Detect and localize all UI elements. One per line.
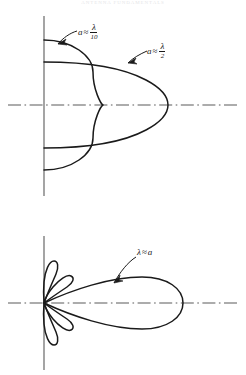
leader-arrow-lambda-over-10 [58, 31, 77, 45]
fraction-numerator-2: λ [159, 42, 165, 52]
leader-arrow-lambda-approx-a [114, 257, 136, 283]
fraction-lambda-over-2: λ2 [159, 42, 165, 60]
approx-symbol-1: ≈ [83, 27, 90, 37]
fraction-numerator-1: λ [90, 23, 97, 33]
approx-symbol-3: ≈ [141, 247, 148, 257]
label-a-approx-lambda-over-10: a≈λ10 [78, 23, 97, 41]
label-variable-a-3: a [148, 247, 153, 257]
label-lambda-approx-a: λ≈a [137, 248, 152, 257]
figure-root: ANTENNA FUNDAMENTALS [0, 0, 246, 375]
upper-panel [8, 16, 238, 196]
fraction-denominator-1: 10 [90, 33, 97, 40]
fraction-lambda-over-10: λ10 [90, 23, 97, 41]
side-lobe-upper-outer [44, 276, 73, 303]
leader-arrow-lambda-over-2 [128, 51, 147, 64]
lower-panel [8, 236, 238, 370]
label-variable-a-2: a [147, 46, 152, 56]
radiation-pattern-figure [0, 0, 246, 375]
approx-symbol-2: ≈ [152, 46, 159, 56]
fraction-denominator-2: 2 [159, 52, 165, 59]
side-lobe-lower-outer [44, 303, 73, 330]
label-a-approx-lambda-over-2: a≈λ2 [147, 42, 165, 60]
label-variable-a-1: a [78, 27, 83, 37]
